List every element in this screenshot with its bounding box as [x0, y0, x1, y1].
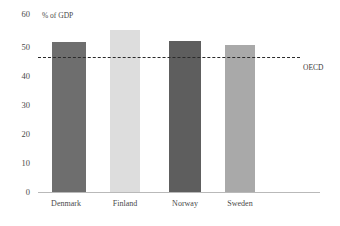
bar-denmark [52, 42, 86, 193]
bar-norway [169, 41, 201, 194]
y-tick-20: 20 [4, 130, 30, 138]
oecd-line-label: OECD [303, 63, 323, 72]
bar-finland [110, 30, 140, 193]
x-axis-line [38, 192, 320, 193]
x-label-sweden: Sweden [202, 199, 278, 208]
bar-sweden [225, 45, 255, 193]
bar-chart: 60 50 40 30 20 10 0 % of GDP OECD Denmar… [0, 0, 340, 226]
y-tick-30: 30 [4, 101, 30, 109]
plot-area [38, 10, 320, 193]
y-tick-50: 50 [4, 43, 30, 51]
y-tick-40: 40 [4, 72, 30, 80]
oecd-reference-line [38, 57, 300, 58]
y-tick-60: 60 [4, 10, 30, 18]
y-tick-10: 10 [4, 159, 30, 167]
cropped-title-remnant [0, 0, 340, 6]
y-tick-0: 0 [4, 188, 30, 196]
